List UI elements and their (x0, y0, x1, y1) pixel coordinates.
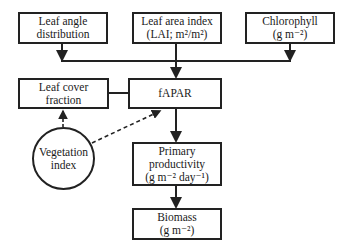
node-vegetation-index: Vegetation index (32, 127, 95, 190)
edge-vi-to-fapar (92, 111, 160, 143)
node-label: index (51, 159, 77, 172)
node-leaf-cover-fraction: Leaf cover fraction (18, 78, 109, 109)
node-chlorophyll: Chlorophyll (g m⁻²) (245, 12, 335, 44)
node-leaf-area-index: Leaf area index (LAI; m²/m²) (132, 12, 222, 44)
node-primary-productivity: Primary productivity (g m⁻² day⁻¹) (132, 142, 222, 186)
node-label: (g m⁻²) (273, 28, 308, 41)
node-label: (g m⁻²) (160, 224, 195, 237)
node-label: productivity (149, 158, 205, 171)
node-label: Chlorophyll (262, 15, 318, 28)
node-biomass: Biomass (g m⁻²) (132, 208, 222, 240)
node-leaf-angle-distribution: Leaf angle distribution (18, 12, 108, 44)
node-label: Leaf cover (39, 81, 88, 94)
node-label: (g m⁻² day⁻¹) (145, 171, 209, 184)
node-label: Primary (158, 145, 195, 158)
node-label: (LAI; m²/m²) (147, 28, 208, 41)
node-label: Leaf angle (39, 15, 88, 28)
node-fapar: fAPAR (128, 78, 222, 109)
node-label: fraction (46, 94, 82, 107)
node-label: Leaf area index (141, 15, 213, 28)
node-label: fAPAR (158, 87, 191, 100)
node-label: Vegetation (39, 146, 88, 159)
node-label: distribution (36, 28, 89, 41)
node-label: Biomass (157, 211, 197, 224)
